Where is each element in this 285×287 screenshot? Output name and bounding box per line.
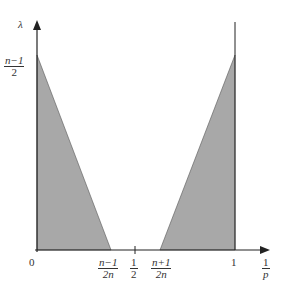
region-diagram: λ n−12 0 n−12n 12 n+12n 1 1p xyxy=(0,0,285,287)
x-axis-label: 1p xyxy=(262,256,270,280)
y-axis-label: λ xyxy=(18,18,23,30)
x-axis-arrow-icon xyxy=(260,246,270,254)
x-tick-n-minus-1-over-2n: n−12n xyxy=(98,256,118,280)
y-axis-arrow-icon xyxy=(33,20,41,30)
y-tick-label: n−12 xyxy=(4,54,24,78)
x-tick-0: 0 xyxy=(29,256,35,268)
diagram-canvas xyxy=(0,0,285,287)
x-tick-n-plus-1-over-2n: n+12n xyxy=(151,256,171,280)
right-shaded-triangle xyxy=(160,55,235,250)
x-tick-half: 12 xyxy=(130,256,138,280)
x-tick-1: 1 xyxy=(231,256,237,268)
left-shaded-triangle xyxy=(37,55,111,250)
